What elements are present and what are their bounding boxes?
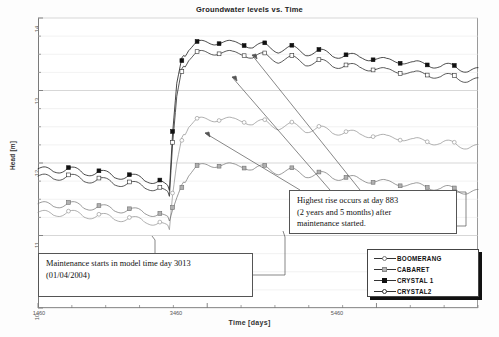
- legend-marker-crystal-1-icon: [373, 276, 397, 286]
- annotation-highest-line-3: maintenance started.: [297, 218, 450, 230]
- legend-label-cabaret: CABARET: [397, 266, 430, 273]
- legend-label-crystal-1: CRYSTAL 1: [397, 277, 433, 284]
- annotation-maintenance-line-2: (01/04/2004): [46, 270, 246, 282]
- chart-figure: Groundwater levels vs. Time Head [m] 14 …: [0, 0, 499, 337]
- legend: BOOMERANG CABARET CRYSTAL 1 CRYSTAL2: [367, 249, 479, 297]
- annotation-highest-line-1: Highest rise occurs at day 883: [297, 195, 450, 207]
- annotation-highest-rise: Highest rise occurs at day 883 (2 years …: [289, 190, 457, 234]
- legend-row-crystal-2: CRYSTAL2: [368, 286, 478, 297]
- legend-marker-boomerang-icon: [373, 254, 397, 264]
- annotation-maintenance-line-1: Maintenance starts in model time day 301…: [46, 258, 246, 270]
- legend-row-cabaret: CABARET: [368, 264, 478, 275]
- legend-row-crystal-1: CRYSTAL 1: [368, 275, 478, 286]
- legend-label-boomerang: BOOMERANG: [397, 255, 442, 262]
- legend-row-boomerang: BOOMERANG: [368, 253, 478, 264]
- legend-marker-cabaret-icon: [373, 265, 397, 275]
- annotation-highest-line-2: (2 years and 5 months) after: [297, 207, 450, 219]
- legend-marker-crystal-2-icon: [373, 287, 397, 297]
- legend-label-crystal-2: CRYSTAL2: [397, 288, 432, 295]
- annotation-maintenance: Maintenance starts in model time day 301…: [38, 253, 253, 297]
